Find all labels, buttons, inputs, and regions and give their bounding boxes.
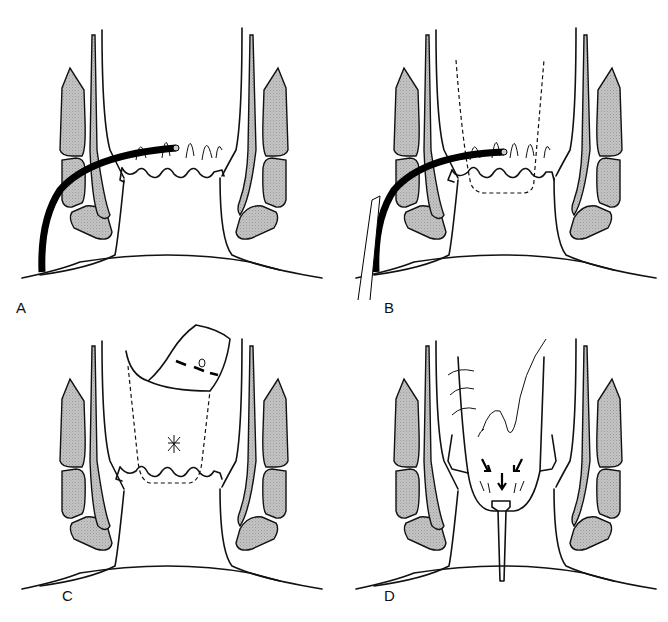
panel-a-drawing: [0, 0, 334, 311]
panel-a: A: [0, 0, 334, 311]
panel-b-drawing: [334, 0, 668, 311]
panel-c-drawing: [0, 311, 334, 622]
panel-c: C: [0, 311, 334, 622]
panel-d-drawing: [334, 311, 668, 622]
panel-label-d: D: [384, 587, 395, 604]
panel-d: D: [334, 311, 668, 622]
panel-b: B: [334, 0, 668, 311]
panel-label-c: C: [62, 587, 73, 604]
